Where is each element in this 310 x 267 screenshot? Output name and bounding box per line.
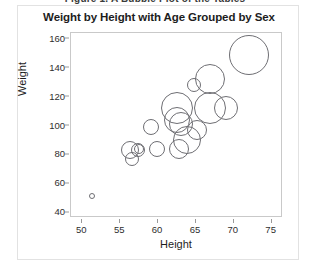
x-axis-tick-50: 50 [61,224,101,235]
x-axis-tick-55: 55 [99,224,139,235]
y-axis-tick-80: 80 [25,148,65,159]
y-tick-mark-icon [65,211,69,212]
chart-title: Weight by Height with Age Grouped by Sex [18,11,300,23]
y-axis-tick-120: 120 [25,90,65,101]
y-tick-mark-icon [65,96,69,97]
x-tick-mark-icon [271,219,272,223]
y-tick-mark-icon [65,67,69,68]
figure-panel: Weight by Height with Age Grouped by Sex… [17,5,299,260]
x-tick-mark-icon [195,219,196,223]
y-axis-tick-100: 100 [25,119,65,130]
y-tick-mark-icon [65,153,69,154]
plot-area [70,32,282,217]
data-point-bubble [89,193,95,199]
y-tick-mark-icon [65,182,69,183]
data-point-bubble [214,96,238,120]
x-tick-mark-icon [233,219,234,223]
x-tick-mark-icon [157,219,158,223]
x-axis-tick-60: 60 [137,224,177,235]
y-axis-tick-160: 160 [25,32,65,43]
x-axis-tick-70: 70 [213,224,253,235]
data-point-bubble [229,35,269,75]
x-axis-tick-75: 75 [251,224,291,235]
y-tick-mark-icon [65,38,69,39]
clipped-caption-text: Figure 1. A Bubble Plot of the Tables [0,0,310,4]
y-axis-tick-140: 140 [25,61,65,72]
x-tick-mark-icon [119,219,120,223]
data-point-bubble [149,141,165,157]
y-axis-tick-60: 60 [25,177,65,188]
y-tick-mark-icon [65,125,69,126]
x-axis-tick-labels: 505560657075 [70,224,282,238]
x-axis-tick-65: 65 [175,224,215,235]
data-point-bubble [143,119,159,135]
y-axis-tick-40: 40 [25,206,65,217]
y-axis-tick-labels: 406080100120140160 [18,32,65,217]
data-point-bubble [134,144,144,154]
bubble-series-layer [71,33,281,216]
x-axis-title: Height [70,238,282,250]
x-tick-mark-icon [81,219,82,223]
data-point-bubble [195,64,225,94]
